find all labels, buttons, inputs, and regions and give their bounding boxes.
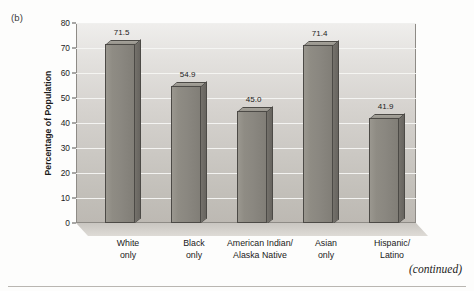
y-tick-label: 80	[61, 18, 70, 28]
y-tick-label: 60	[61, 68, 70, 78]
bar-value-label: 71.5	[114, 28, 130, 37]
y-tick-mark	[72, 123, 76, 124]
bar-top-face	[171, 82, 207, 87]
bar: 71.5	[105, 40, 135, 223]
bar-top-face	[303, 41, 339, 46]
x-axis-category-label: Hispanic/Latino	[342, 238, 442, 261]
bar-side-face	[201, 81, 207, 223]
bar: 45.0	[237, 107, 267, 224]
y-tick-mark	[72, 173, 76, 174]
bar: 54.9	[171, 82, 201, 223]
bar-side-face	[135, 40, 141, 223]
bar-side-face	[267, 106, 273, 223]
bar-top-face	[237, 107, 273, 112]
y-tick-label: 50	[61, 93, 70, 103]
bar-value-label: 54.9	[180, 70, 196, 79]
bar-top-face	[369, 114, 405, 119]
x-axis-category-line: Hispanic/	[342, 238, 442, 250]
y-tick-label: 10	[61, 193, 70, 203]
bar-front-face	[105, 44, 135, 223]
figure-panel-b: (b) Percentage of Population 01020304050…	[0, 0, 474, 291]
continued-note: (continued)	[409, 263, 462, 275]
bar-front-face	[171, 86, 201, 223]
bottom-rule	[8, 286, 466, 287]
plot-area: 01020304050607080 71.554.945.071.441.9	[76, 23, 416, 223]
bar-top-face	[105, 40, 141, 45]
bar: 41.9	[369, 114, 399, 223]
bar: 71.4	[303, 41, 333, 224]
y-tick-label: 20	[61, 168, 70, 178]
bar-value-label: 71.4	[312, 29, 328, 38]
bar-front-face	[237, 111, 267, 224]
y-tick-label: 30	[61, 143, 70, 153]
x-axis-category-line: Latino	[342, 250, 442, 262]
y-tick-mark	[72, 198, 76, 199]
chart-floor-top	[76, 223, 428, 236]
y-tick-mark	[72, 48, 76, 49]
y-tick-mark	[72, 98, 76, 99]
panel-label: (b)	[11, 12, 23, 23]
bar-value-label: 41.9	[378, 102, 394, 111]
y-tick-mark	[72, 23, 76, 24]
chart-floor	[76, 223, 428, 236]
bar-front-face	[303, 45, 333, 224]
bar-side-face	[399, 114, 405, 223]
y-axis-title: Percentage of Population	[43, 38, 53, 208]
gridline	[76, 23, 416, 24]
bar-side-face	[333, 40, 339, 223]
y-tick-label: 40	[61, 118, 70, 128]
y-tick-mark	[72, 73, 76, 74]
bar-value-label: 45.0	[246, 95, 262, 104]
y-tick-label: 70	[61, 43, 70, 53]
y-tick-label: 0	[65, 218, 70, 228]
bar-front-face	[369, 118, 399, 223]
y-tick-mark	[72, 148, 76, 149]
x-axis-category-labels: WhiteonlyBlackonlyAmerican Indian/Alaska…	[76, 238, 428, 270]
